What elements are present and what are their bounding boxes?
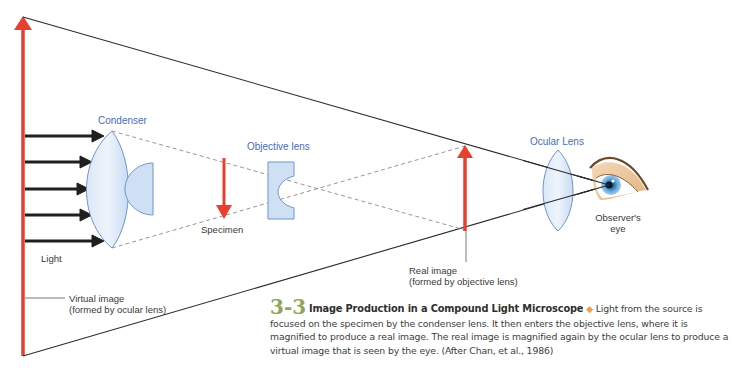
figure-number: 3-3: [270, 295, 306, 319]
real-image-label-line1: Real image: [409, 265, 518, 276]
specimen-arrow: [216, 158, 232, 219]
virtual-image-label-line1: Virtual image: [69, 293, 166, 304]
ocular-lens: [543, 150, 573, 231]
figure-caption: 3-3 Image Production in a Compound Light…: [270, 301, 732, 357]
condenser-lens: [87, 131, 154, 248]
diamond-bullet-icon: ◆: [586, 304, 593, 314]
condenser-label: Condenser: [98, 115, 147, 126]
objective-lens: [268, 162, 294, 219]
observer-label-line2: eye: [588, 223, 648, 234]
real-image-label-line2: (formed by objective lens): [409, 276, 518, 287]
virtual-image-arrow: [14, 16, 32, 356]
eye-icon: [590, 158, 648, 200]
real-image-arrow: [457, 145, 473, 262]
figure-title: Image Production in a Compound Light Mic…: [309, 303, 583, 314]
observer-label-line1: Observer's: [588, 212, 648, 223]
light-label: Light: [41, 253, 62, 264]
objective-lens-label: Objective lens: [247, 141, 310, 152]
real-image-label: Real image (formed by objective lens): [409, 265, 518, 287]
ocular-lens-label: Ocular Lens: [530, 136, 584, 147]
virtual-image-label-line2: (formed by ocular lens): [69, 304, 166, 315]
observer-eye-label: Observer's eye: [588, 212, 648, 234]
virtual-image-label: Virtual image (formed by ocular lens): [69, 293, 166, 315]
specimen-label: Specimen: [201, 224, 243, 235]
